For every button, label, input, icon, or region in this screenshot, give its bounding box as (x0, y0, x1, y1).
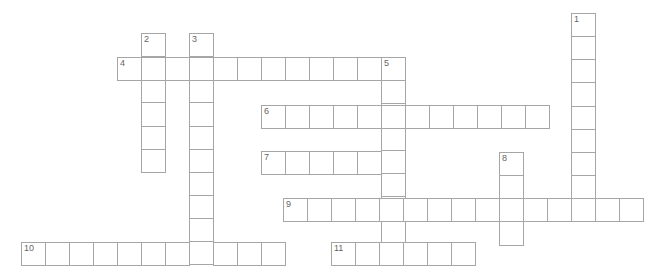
grid-cell[interactable] (357, 105, 382, 129)
grid-cell[interactable] (45, 242, 70, 266)
cell-letter-input[interactable] (308, 199, 331, 221)
grid-cell[interactable] (189, 57, 214, 81)
grid-cell[interactable] (285, 151, 310, 175)
cell-letter-input[interactable] (406, 106, 429, 128)
cell-letter-input[interactable] (334, 152, 357, 174)
grid-cell[interactable] (501, 105, 526, 129)
cell-letter-input[interactable] (382, 151, 405, 173)
cell-letter-input[interactable] (190, 150, 213, 172)
grid-cell[interactable] (189, 241, 214, 265)
cell-letter-input[interactable] (332, 243, 355, 265)
cell-letter-input[interactable] (502, 106, 525, 128)
grid-cell[interactable] (141, 79, 166, 103)
grid-cell[interactable] (379, 198, 404, 222)
grid-cell[interactable] (307, 198, 332, 222)
cell-letter-input[interactable] (262, 58, 285, 80)
cell-letter-input[interactable] (358, 58, 381, 80)
grid-cell[interactable] (571, 59, 596, 83)
cell-letter-input[interactable] (454, 106, 477, 128)
cell-letter-input[interactable] (262, 152, 285, 174)
cell-letter-input[interactable] (142, 150, 165, 172)
grid-cell[interactable] (571, 152, 596, 176)
cell-letter-input[interactable] (238, 243, 261, 265)
cell-letter-input[interactable] (358, 152, 381, 174)
cell-letter-input[interactable] (478, 106, 501, 128)
grid-cell[interactable] (165, 57, 190, 81)
cell-letter-input[interactable] (190, 127, 213, 149)
cell-letter-input[interactable] (94, 243, 117, 265)
cell-letter-input[interactable] (190, 58, 213, 80)
cell-letter-input[interactable] (404, 243, 427, 265)
cell-letter-input[interactable] (310, 106, 333, 128)
grid-cell[interactable] (451, 198, 476, 222)
cell-letter-input[interactable] (190, 173, 213, 195)
cell-letter-input[interactable] (382, 106, 405, 128)
grid-cell[interactable] (333, 151, 358, 175)
cell-letter-input[interactable] (142, 103, 165, 125)
cell-letter-input[interactable] (262, 243, 285, 265)
cell-letter-input[interactable] (404, 199, 427, 221)
cell-letter-input[interactable] (596, 199, 619, 221)
cell-letter-input[interactable] (526, 106, 549, 128)
grid-cell[interactable] (499, 221, 524, 245)
grid-cell[interactable] (237, 57, 262, 81)
cell-letter-input[interactable] (356, 199, 379, 221)
grid-cell[interactable] (213, 57, 238, 81)
grid-cell[interactable] (309, 57, 334, 81)
cell-letter-input[interactable] (452, 199, 475, 221)
grid-cell[interactable] (213, 242, 238, 266)
grid-cell[interactable] (285, 105, 310, 129)
cell-letter-input[interactable] (382, 58, 405, 80)
grid-cell[interactable] (141, 126, 166, 150)
cell-letter-input[interactable] (142, 80, 165, 102)
grid-cell[interactable] (355, 242, 380, 266)
grid-cell[interactable]: 5 (381, 57, 406, 81)
grid-cell[interactable] (117, 242, 142, 266)
grid-cell[interactable] (189, 126, 214, 150)
cell-letter-input[interactable] (166, 58, 189, 80)
grid-cell[interactable] (405, 105, 430, 129)
cell-letter-input[interactable] (166, 243, 189, 265)
cell-letter-input[interactable] (284, 199, 307, 221)
cell-letter-input[interactable] (380, 199, 403, 221)
cell-letter-input[interactable] (572, 60, 595, 82)
cell-letter-input[interactable] (572, 153, 595, 175)
cell-letter-input[interactable] (118, 243, 141, 265)
grid-cell[interactable] (261, 57, 286, 81)
grid-cell[interactable] (141, 149, 166, 173)
cell-letter-input[interactable] (428, 199, 451, 221)
grid-cell[interactable] (93, 242, 118, 266)
cell-letter-input[interactable] (238, 58, 261, 80)
grid-cell[interactable] (261, 242, 286, 266)
grid-cell[interactable]: 9 (283, 198, 308, 222)
cell-letter-input[interactable] (430, 106, 453, 128)
grid-cell[interactable] (525, 105, 550, 129)
grid-cell[interactable] (477, 105, 502, 129)
grid-cell[interactable] (357, 151, 382, 175)
grid-cell[interactable]: 3 (189, 33, 214, 57)
cell-letter-input[interactable] (620, 199, 643, 221)
cell-letter-input[interactable] (382, 127, 405, 149)
grid-cell[interactable] (141, 57, 166, 81)
cell-letter-input[interactable] (142, 243, 165, 265)
grid-cell[interactable]: 10 (21, 242, 46, 266)
cell-letter-input[interactable] (382, 81, 405, 103)
grid-cell[interactable]: 11 (331, 242, 356, 266)
cell-letter-input[interactable] (428, 243, 451, 265)
grid-cell[interactable] (333, 57, 358, 81)
grid-cell[interactable] (141, 242, 166, 266)
cell-letter-input[interactable] (380, 243, 403, 265)
cell-letter-input[interactable] (572, 176, 595, 198)
cell-letter-input[interactable] (452, 243, 475, 265)
grid-cell[interactable] (381, 150, 406, 174)
grid-cell[interactable] (189, 102, 214, 126)
grid-cell[interactable] (379, 242, 404, 266)
grid-cell[interactable] (453, 105, 478, 129)
cell-letter-input[interactable] (500, 199, 523, 221)
cell-letter-input[interactable] (46, 243, 69, 265)
grid-cell[interactable] (523, 198, 548, 222)
cell-letter-input[interactable] (190, 242, 213, 264)
cell-letter-input[interactable] (190, 196, 213, 218)
cell-letter-input[interactable] (190, 219, 213, 241)
grid-cell[interactable]: 1 (571, 13, 596, 37)
